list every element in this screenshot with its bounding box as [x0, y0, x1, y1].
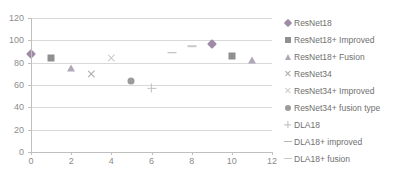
legend: ResNet18ResNet18+ ImprovedResNet18+ Fusi… — [281, 14, 399, 167]
plus-marker-icon — [281, 118, 294, 131]
cross-light-marker-icon — [281, 84, 294, 97]
y-tick-label: 0 — [0, 148, 24, 157]
y-tick-label: 120 — [0, 14, 24, 23]
marker-glyph — [284, 87, 291, 94]
legend-item-label: ResNet18+ Improved — [294, 35, 375, 45]
dash-marker-icon — [281, 135, 294, 148]
x-tick-label: 12 — [262, 157, 282, 166]
y-tick-mark — [28, 63, 31, 64]
data-point-cross — [87, 69, 96, 78]
data-point-cross-light — [107, 54, 116, 63]
x-tick-mark — [192, 152, 193, 155]
triangle-marker-icon — [281, 50, 294, 63]
legend-item-label: ResNet18 — [294, 18, 332, 28]
marker-glyph — [285, 54, 291, 60]
x-tick-mark — [272, 152, 273, 155]
data-point-square — [48, 55, 55, 62]
legend-item-label: DLA18+ fusion — [294, 154, 350, 164]
x-tick-mark — [31, 152, 32, 155]
plot-area — [31, 18, 272, 152]
x-tick-label: 2 — [61, 157, 81, 166]
data-point-triangle — [248, 57, 256, 64]
x-tick-label: 4 — [101, 157, 121, 166]
y-tick-mark — [28, 85, 31, 86]
gridline — [31, 63, 272, 64]
legend-item[interactable]: ResNet18+ Fusion — [281, 48, 399, 65]
gridline — [31, 107, 272, 108]
marker-glyph — [284, 158, 292, 160]
legend-item-label: DLA18+ improved — [294, 137, 362, 147]
y-tick-label: 80 — [0, 59, 24, 68]
diamond-marker-icon — [281, 16, 294, 29]
x-tick-label: 0 — [21, 157, 41, 166]
legend-item-label: ResNet18+ Fusion — [294, 52, 365, 62]
dash-light-marker-icon — [281, 152, 294, 165]
square-marker-icon — [281, 33, 294, 46]
legend-item[interactable]: DLA18+ improved — [281, 133, 399, 150]
y-tick-label: 40 — [0, 103, 24, 112]
legend-item[interactable]: DLA18 — [281, 116, 399, 133]
data-point-plus — [147, 84, 156, 93]
data-point-dash — [167, 52, 176, 54]
data-point-square — [228, 52, 235, 59]
x-tick-mark — [111, 152, 112, 155]
legend-item-label: ResNet34+ fusion type — [294, 103, 380, 113]
marker-glyph — [284, 70, 291, 77]
x-tick-label: 10 — [222, 157, 242, 166]
y-tick-mark — [28, 40, 31, 41]
legend-item[interactable]: ResNet34 — [281, 65, 399, 82]
legend-item[interactable]: ResNet34+ fusion type — [281, 99, 399, 116]
data-point-circle — [128, 77, 135, 84]
legend-item[interactable]: ResNet18+ Improved — [281, 31, 399, 48]
legend-item-label: DLA18 — [294, 120, 320, 130]
marker-glyph — [284, 141, 292, 143]
marker-glyph — [285, 105, 291, 111]
marker-glyph — [283, 18, 291, 26]
y-tick-label: 20 — [0, 126, 24, 135]
y-axis-line — [31, 18, 32, 152]
y-tick-mark — [28, 107, 31, 108]
marker-glyph — [285, 37, 291, 43]
gridline — [31, 40, 272, 41]
legend-item[interactable]: ResNet34+ Improved — [281, 82, 399, 99]
legend-item[interactable]: DLA18+ fusion — [281, 150, 399, 167]
gridline — [31, 130, 272, 131]
x-tick-mark — [152, 152, 153, 155]
x-tick-mark — [232, 152, 233, 155]
data-point-dash-light — [187, 45, 196, 47]
circle-marker-icon — [281, 101, 294, 114]
cross-marker-icon — [281, 67, 294, 80]
legend-item-label: ResNet34+ Improved — [294, 86, 375, 96]
x-tick-mark — [71, 152, 72, 155]
y-tick-label: 100 — [0, 36, 24, 45]
x-tick-label: 6 — [142, 157, 162, 166]
y-tick-label: 60 — [0, 81, 24, 90]
y-tick-mark — [28, 18, 31, 19]
gridline — [31, 18, 272, 19]
x-tick-label: 8 — [182, 157, 202, 166]
y-tick-mark — [28, 130, 31, 131]
marker-glyph — [284, 121, 291, 128]
data-point-triangle — [67, 65, 75, 72]
legend-item[interactable]: ResNet18 — [281, 14, 399, 31]
scatter-chart: 020406080100120 024681012 ResNet18ResNet… — [0, 0, 399, 187]
legend-item-label: ResNet34 — [294, 69, 332, 79]
